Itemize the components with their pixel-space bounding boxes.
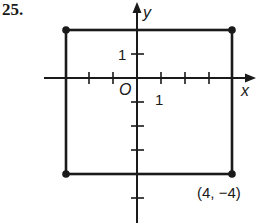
- x-axis: [44, 74, 256, 83]
- vertex-dot: [228, 170, 236, 178]
- y-unit-label: 1: [118, 46, 126, 63]
- origin-label: O: [119, 81, 131, 98]
- coordinate-plane: y x O 1 1 (4, −4): [0, 0, 256, 223]
- vertex-dot: [62, 26, 70, 34]
- y-axis: [133, 2, 142, 223]
- x-axis-label: x: [240, 82, 250, 99]
- x-unit-label: 1: [155, 91, 163, 108]
- vertex-dot: [62, 170, 70, 178]
- y-axis-label: y: [142, 4, 152, 21]
- vertex-coordinate-label: (4, −4): [197, 184, 241, 201]
- y-axis-arrow-icon: [133, 2, 142, 13]
- rectangle-figure: [66, 30, 232, 174]
- vertex-dot: [228, 26, 236, 34]
